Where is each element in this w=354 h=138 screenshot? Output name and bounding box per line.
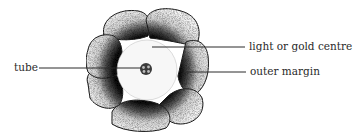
petal-right <box>178 41 209 95</box>
tube <box>140 63 152 75</box>
flower-diagram: tube light or gold centre outer margin <box>0 0 354 138</box>
label-tube: tube <box>14 61 38 73</box>
label-outer-margin: outer margin <box>250 65 320 77</box>
petal-left <box>86 35 122 79</box>
label-centre: light or gold centre <box>249 40 352 52</box>
